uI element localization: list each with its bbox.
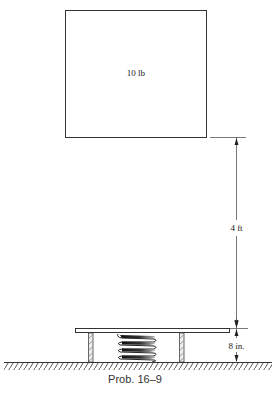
weight-block: 10 lb	[66, 11, 207, 138]
spring-icon	[118, 334, 157, 362]
drop-height-dimension: 4 ft	[210, 138, 246, 328]
spring-height-label: 8 in.	[228, 341, 244, 351]
arrowhead-up-icon	[235, 138, 239, 145]
arrowhead-down-icon	[235, 355, 239, 362]
support-post-left	[89, 333, 94, 362]
support-post-right	[180, 333, 185, 362]
arrowhead-up-icon	[235, 329, 239, 336]
spring-height-dimension: 8 in.	[228, 318, 248, 362]
drop-height-label: 4 ft	[230, 223, 243, 233]
platform-plate	[76, 329, 230, 333]
figure-caption: Prob. 16–9	[108, 373, 162, 385]
problem-figure: 10 lb 4 ft 8 in.	[0, 0, 276, 399]
ground	[4, 362, 272, 370]
block-weight-label: 10 lb	[127, 68, 146, 78]
arrowhead-down-icon	[235, 321, 239, 328]
